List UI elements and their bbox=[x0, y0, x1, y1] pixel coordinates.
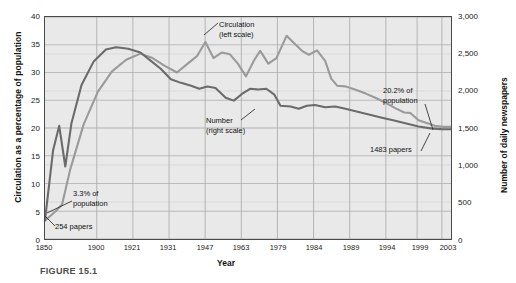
annotation-papers-end-line1: 1483 papers bbox=[370, 145, 412, 155]
figure-caption: FIGURE 15.1 bbox=[40, 266, 97, 276]
leader-line-papers-end bbox=[420, 133, 434, 153]
y-tick-left-20: 20 bbox=[14, 124, 40, 133]
y-tick-left-5: 5 bbox=[14, 208, 40, 217]
y-tick-right-1000: 1,000 bbox=[458, 161, 498, 170]
x-tick-1963: 1963 bbox=[221, 243, 261, 252]
annotation-pct-end-line2: population bbox=[383, 96, 418, 106]
leader-line-circulation bbox=[204, 22, 222, 36]
x-tick-1931: 1931 bbox=[148, 243, 188, 252]
annotation-number-label: Number (right scale) bbox=[206, 116, 245, 136]
annotation-circulation-line1: Circulation bbox=[219, 20, 254, 30]
y-tick-left-15: 15 bbox=[14, 152, 40, 161]
figure-container: Circulation as a percentage of populatio… bbox=[0, 0, 516, 283]
y-tick-right-2500: 2,500 bbox=[458, 49, 498, 58]
annotation-pct-start-line1: 3.3% of bbox=[73, 189, 108, 199]
x-tick-1979: 1979 bbox=[258, 243, 298, 252]
annotation-circulation-line2: (left scale) bbox=[219, 30, 254, 40]
annotation-papers-start-label: 254 papers bbox=[55, 222, 93, 232]
leader-line-papers-start bbox=[45, 216, 57, 228]
x-tick-1900: 1900 bbox=[76, 243, 116, 252]
leader-line-pct-end bbox=[424, 104, 438, 132]
y-tick-left-30: 30 bbox=[14, 68, 40, 77]
x-tick-1947: 1947 bbox=[185, 243, 225, 252]
y-tick-right-500: 500 bbox=[458, 198, 498, 207]
y-tick-left-25: 25 bbox=[14, 96, 40, 105]
annotation-number-line2: (right scale) bbox=[206, 126, 245, 136]
annotation-papers-start-line1: 254 papers bbox=[55, 222, 93, 232]
y-tick-right-3000: 3,000 bbox=[458, 12, 498, 21]
x-tick-1989: 1989 bbox=[331, 243, 371, 252]
annotation-circulation-label: Circulation (left scale) bbox=[219, 20, 254, 40]
annotation-pct-end-label: 20.2% of population bbox=[383, 86, 418, 106]
x-tick-1921: 1921 bbox=[112, 243, 152, 252]
leader-line-pct-start bbox=[46, 200, 74, 214]
y-tick-left-10: 10 bbox=[14, 180, 40, 189]
leader-line-number bbox=[241, 108, 259, 122]
annotation-papers-end-label: 1483 papers bbox=[370, 145, 412, 155]
annotation-pct-start-label: 3.3% of population bbox=[73, 189, 108, 209]
y-tick-left-40: 40 bbox=[14, 12, 40, 21]
x-tick-2003: 2003 bbox=[428, 243, 468, 252]
y-tick-left-35: 35 bbox=[14, 40, 40, 49]
x-tick-1850: 1850 bbox=[24, 243, 64, 252]
annotation-pct-start-line2: population bbox=[73, 199, 108, 209]
x-tick-1984: 1984 bbox=[294, 243, 334, 252]
y-tick-right-1500: 1,500 bbox=[458, 124, 498, 133]
annotation-number-line1: Number bbox=[206, 116, 245, 126]
y-axis-right-title: Number of daily newspapers bbox=[499, 45, 509, 225]
y-tick-right-2000: 2,000 bbox=[458, 86, 498, 95]
annotation-pct-end-line1: 20.2% of bbox=[383, 86, 418, 96]
